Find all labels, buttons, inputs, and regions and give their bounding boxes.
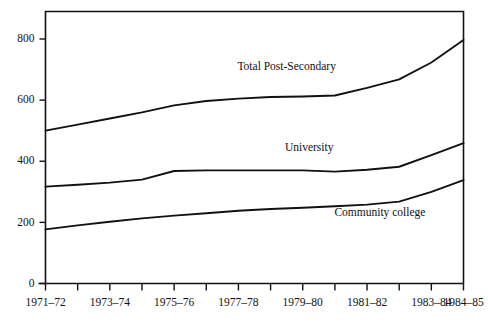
y-tick-label: 800 [17,32,35,44]
x-tick-label: 1975–76 [154,296,195,308]
y-tick-label: 200 [17,216,35,228]
x-tick-label: 1971–72 [25,296,66,308]
x-axis-labels: 1971–721973–741975–761977–781979–801981–… [25,296,484,308]
series-label-university: University [285,141,334,154]
x-tick-label: 1984–85 [443,296,484,308]
y-tick-label: 0 [29,277,35,289]
series-label-community-college: Community college [334,206,425,219]
series-label-total-post-secondary: Total Post-Secondary [237,60,336,73]
y-tick-label: 600 [17,93,35,105]
x-tick-label: 1979–80 [283,296,324,308]
x-tick-label: 1981–82 [347,296,388,308]
chart-canvas: 0200400600800 1971–721973–741975–761977–… [0,0,488,322]
y-tick-label: 400 [17,154,35,166]
line-chart: 0200400600800 1971–721973–741975–761977–… [0,0,488,322]
x-tick-label: 1973–74 [90,296,131,308]
x-tick-label: 1977–78 [218,296,259,308]
